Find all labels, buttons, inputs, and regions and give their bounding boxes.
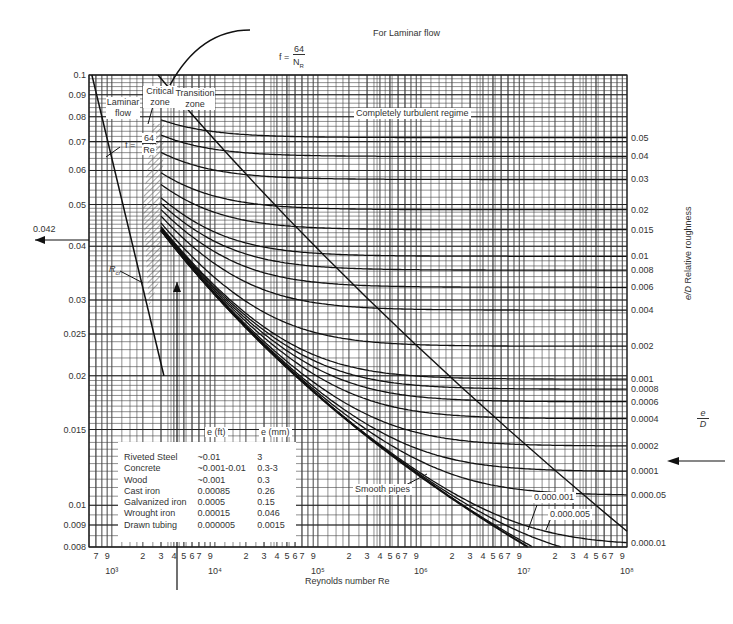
roughness-mm: 0.3 [257,475,296,486]
svg-text:2: 2 [346,551,351,561]
svg-text:0.02: 0.02 [631,205,649,215]
svg-text:0.000.01: 0.000.01 [631,538,666,548]
roughness-mm: 0.046 [257,508,296,519]
svg-text:0.004: 0.004 [631,305,654,315]
roughness-000001-label: 0.000.001 [532,492,576,503]
svg-text:0.0002: 0.0002 [631,441,659,451]
svg-text:2: 2 [140,551,145,561]
svg-text:3: 3 [468,551,473,561]
svg-text:0.01: 0.01 [631,251,649,261]
r-subscript: R [300,63,304,69]
roughness-ft: ~0.001-0.01 [197,463,257,474]
svg-text:10⁶: 10⁶ [414,566,428,576]
svg-text:2: 2 [449,551,454,561]
laminar-flow-label: Laminar flow [106,97,140,119]
svg-text:0.07: 0.07 [68,137,86,147]
cr-subscript: cr [116,270,121,276]
laminar-flow-title: For Laminar flow [373,28,440,39]
ed-denominator: D [697,419,709,429]
svg-text:4: 4 [171,551,176,561]
svg-text:0.015: 0.015 [63,425,86,435]
svg-text:0.0008: 0.0008 [631,384,659,394]
svg-text:6: 6 [396,551,401,561]
svg-text:2: 2 [243,551,248,561]
laminar-formula-numerator: 64 [293,44,305,55]
svg-text:3: 3 [365,551,370,561]
roughness-mm: 0.26 [257,486,296,497]
material: Wrought iron [118,508,197,519]
svg-text:0.03: 0.03 [631,174,649,184]
moody-diagram: 0.10.090.080.070.060.050.040.030.0250.02… [0,0,733,624]
f64re-numerator: 64 [142,133,156,144]
svg-text:10⁷: 10⁷ [517,566,530,576]
y-axis-ticks: 0.10.090.080.070.060.050.040.030.0250.02… [63,70,86,552]
svg-text:0.0004: 0.0004 [631,414,659,424]
svg-text:0.002: 0.002 [631,341,654,351]
completely-turbulent-label: Completely turbulent regime [354,108,471,119]
svg-text:9: 9 [311,551,316,561]
svg-text:0.025: 0.025 [63,329,86,339]
svg-text:9: 9 [517,551,522,561]
svg-text:0.009: 0.009 [63,520,86,530]
roughness-ft: ~0.01 [197,452,257,463]
legend-row: Wood~0.0010.3 [118,475,296,486]
relative-roughness-axis-label: e/D Relative roughness [683,206,694,300]
material: Cast iron [118,486,197,497]
f64re-f-eq: f = [125,140,135,151]
ed-numerator: e [697,408,709,419]
svg-text:0.01: 0.01 [68,500,86,510]
legend-row: Cast iron0.000850.26 [118,486,296,497]
svg-text:4: 4 [480,551,485,561]
roughness-ft: 0.00085 [197,486,257,497]
svg-text:5: 5 [593,551,598,561]
svg-text:5: 5 [284,551,289,561]
svg-text:4: 4 [377,551,382,561]
material: Drawn tubing [118,520,197,531]
transition-zone-label: Transition zone [175,88,215,110]
svg-text:6: 6 [190,551,195,561]
right-axis-roughness-labels: 0.050.040.030.020.0150.010.0080.0060.004… [631,133,666,548]
svg-text:7: 7 [93,551,98,561]
svg-text:0.05: 0.05 [68,200,86,210]
f64re-denominator: Re [142,145,156,155]
material: Concrete [118,463,197,474]
svg-text:7: 7 [299,551,304,561]
ed-fraction: e/D [683,283,693,300]
material: Riveted Steel [118,452,197,463]
svg-text:3: 3 [571,551,576,561]
svg-text:0.08: 0.08 [68,112,86,122]
legend-row: Galvanized iron0.00050.15 [118,497,296,508]
svg-text:0.03: 0.03 [68,295,86,305]
legend-row: Wrought iron0.000150.046 [118,508,296,519]
legend-row: Drawn tubing0.0000050.0015 [118,520,296,531]
roughness-legend-table: Riveted Steel~0.013 Concrete~0.001-0.010… [118,442,296,542]
svg-text:5: 5 [181,551,186,561]
roughness-mm: 0.15 [257,497,296,508]
x-axis-label: Reynolds number Re [305,576,390,587]
value-042-label: 0.042 [33,224,56,235]
legend-header-ft: e (ft) [205,427,228,437]
svg-text:0.09: 0.09 [68,90,86,100]
svg-text:0.0006: 0.0006 [631,397,659,407]
roughness-ft: 0.000005 [197,520,257,531]
roughness-mm: 0.3-3 [257,463,296,474]
roughness-mm: 0.0015 [257,520,296,531]
svg-text:0.015: 0.015 [631,225,654,235]
svg-text:9: 9 [208,551,213,561]
legend-header-mm: e (mm) [259,427,292,437]
svg-text:0.04: 0.04 [631,151,649,161]
svg-text:9: 9 [620,551,625,561]
svg-text:0.001: 0.001 [631,374,654,384]
roughness-000005-label: 0.000.005 [548,509,592,520]
roughness-ft: 0.0005 [197,497,257,508]
svg-text:6: 6 [293,551,298,561]
legend-row: Riveted Steel~0.013 [118,452,296,463]
svg-text:10⁸: 10⁸ [620,566,634,576]
roughness-mm: 3 [257,452,296,463]
svg-text:7: 7 [196,551,201,561]
svg-text:0.008: 0.008 [631,265,654,275]
material: Wood [118,475,197,486]
svg-text:0.02: 0.02 [68,371,86,381]
svg-text:4: 4 [583,551,588,561]
svg-text:0.1: 0.1 [73,70,86,80]
